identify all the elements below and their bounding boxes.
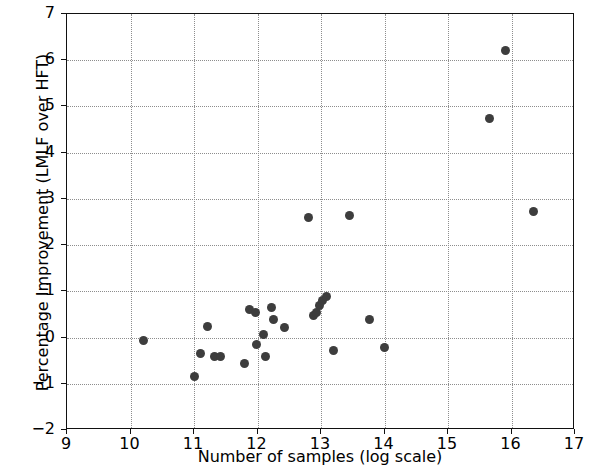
data-point xyxy=(529,207,538,216)
data-point xyxy=(345,211,354,220)
gridline-horizontal xyxy=(67,106,573,107)
data-point xyxy=(252,340,261,349)
data-point xyxy=(216,352,225,361)
data-point xyxy=(380,343,389,352)
y-tick-mark xyxy=(61,383,66,384)
y-tick-mark xyxy=(61,13,66,14)
gridline-horizontal xyxy=(67,153,573,154)
data-point xyxy=(190,372,199,381)
y-axis-label: Percentage Improvement (LMLF over HFT) xyxy=(33,15,52,431)
gridline-horizontal xyxy=(67,245,573,246)
y-tick-mark xyxy=(61,244,66,245)
gridline-vertical xyxy=(512,14,513,428)
data-point xyxy=(329,346,338,355)
gridline-vertical xyxy=(258,14,259,428)
x-axis-label: Number of samples (log scale) xyxy=(66,447,574,466)
data-point xyxy=(251,308,260,317)
data-point xyxy=(240,359,249,368)
gridline-vertical xyxy=(385,14,386,428)
y-tick-mark xyxy=(61,198,66,199)
data-point xyxy=(269,315,278,324)
data-point xyxy=(485,114,494,123)
data-point xyxy=(196,349,205,358)
gridline-horizontal xyxy=(67,60,573,61)
y-tick-mark xyxy=(61,429,66,430)
y-tick-mark xyxy=(61,337,66,338)
data-point xyxy=(501,46,510,55)
data-point xyxy=(203,322,212,331)
data-point xyxy=(267,303,276,312)
gridline-vertical xyxy=(321,14,322,428)
data-point xyxy=(322,292,331,301)
data-point xyxy=(304,213,313,222)
y-tick-mark xyxy=(61,152,66,153)
gridline-vertical xyxy=(448,14,449,428)
scatter-plot-figure: 91011121314151617 −2−101234567 Number of… xyxy=(0,0,594,473)
data-point xyxy=(261,352,270,361)
gridline-horizontal xyxy=(67,291,573,292)
gridline-vertical xyxy=(131,14,132,428)
gridline-vertical xyxy=(194,14,195,428)
data-point xyxy=(280,323,289,332)
gridline-horizontal xyxy=(67,199,573,200)
data-point xyxy=(259,330,268,339)
gridline-horizontal xyxy=(67,384,573,385)
data-point xyxy=(139,336,148,345)
y-tick-mark xyxy=(61,59,66,60)
y-tick-mark xyxy=(61,105,66,106)
plot-area xyxy=(66,13,574,429)
data-point xyxy=(365,315,374,324)
y-tick-mark xyxy=(61,290,66,291)
